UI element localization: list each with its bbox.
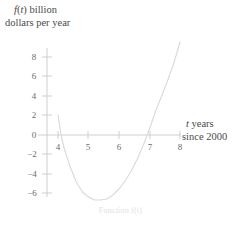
y-axis-label-line2: dollars per year <box>5 16 70 29</box>
x-tick-label: 7 <box>148 142 153 152</box>
y-axis-label-line1: f(t) billion <box>14 4 57 15</box>
y-axis-tick-labels: 8 6 4 2 0 −2 −4 −6 <box>27 52 37 198</box>
y-tick-label: −6 <box>27 188 37 198</box>
y-tick-label: 4 <box>32 91 37 101</box>
y-tick-label: −4 <box>27 169 37 179</box>
y-tick-label: 8 <box>32 52 37 62</box>
y-tick-label: −2 <box>27 149 37 159</box>
x-axis-label: t years since 2000 <box>186 117 227 143</box>
y-axis-label: f(t) billion dollars per year <box>14 3 70 29</box>
x-tick-label: 4 <box>56 142 61 152</box>
y-tick-label: 0 <box>32 130 37 140</box>
x-tick-label: 5 <box>86 142 91 152</box>
y-tick-label: 2 <box>32 110 37 120</box>
plot-area: 8 6 4 2 0 −2 −4 −6 4 5 6 7 8 <box>0 0 241 227</box>
chart-figure: f(t) billion dollars per year t years si… <box>0 0 241 227</box>
x-tick-label: 8 <box>178 142 183 152</box>
x-axis-label-line1: t years <box>186 118 214 129</box>
x-axis-label-line2: since 2000 <box>182 130 227 143</box>
figure-caption: Function f(t) <box>0 206 241 215</box>
x-axis-tick-labels: 4 5 6 7 8 <box>56 142 183 152</box>
x-tick-label: 6 <box>117 142 122 152</box>
y-tick-label: 6 <box>32 71 37 81</box>
function-curve <box>58 42 180 200</box>
